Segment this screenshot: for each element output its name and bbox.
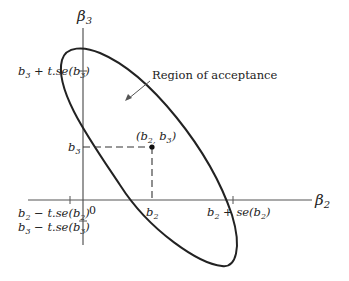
y-upper-tick-label: b3 + t.se(b3) (18, 64, 90, 80)
x-axis-label: β2 (314, 191, 330, 210)
annotation-arrow (128, 81, 150, 99)
point-label: (b2, b3) (136, 129, 176, 145)
y-lower-tick-label: b3 − t.se(b3) (18, 220, 90, 236)
region-of-acceptance-label: Region of acceptance (152, 68, 278, 82)
origin-label: 0 (89, 204, 96, 217)
arrowhead-icon (125, 94, 132, 101)
diagram-canvas: β3 β2 0 Region of acceptance (b2, b3) b3… (0, 0, 349, 281)
estimate-point (149, 144, 154, 149)
y-axis-label: β3 (76, 7, 92, 26)
x-point-tick-label: b2 (146, 205, 158, 221)
y-point-tick-label: b3 (68, 140, 80, 156)
x-upper-tick-label: b2 + se(b2) (207, 205, 271, 221)
